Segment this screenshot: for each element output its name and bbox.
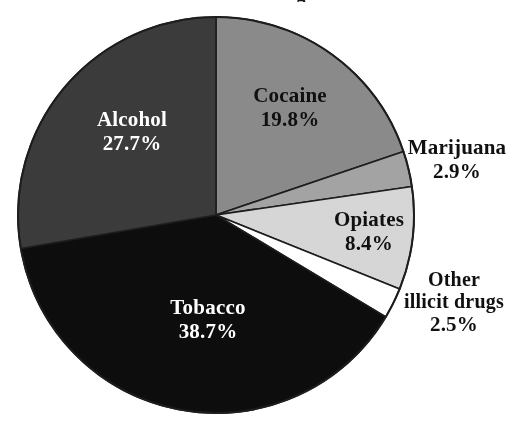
- slice-label-alcohol-name: Alcohol: [62, 108, 202, 132]
- slice-label-cocaine-value: 19.8%: [222, 108, 358, 132]
- pie-chart-figure: g Alcohol 27.7% Cocaine 19.8% Marijuana …: [0, 0, 516, 429]
- pie-chart-svg: [0, 0, 516, 429]
- slice-label-other-value: 2.5%: [392, 313, 516, 337]
- slice-label-cocaine: Cocaine 19.8%: [222, 84, 358, 131]
- slice-label-tobacco: Tobacco 38.7%: [142, 296, 274, 343]
- slice-label-other-illicit-drugs: Other illicit drugs 2.5%: [392, 268, 516, 336]
- slice-label-opiates-value: 8.4%: [314, 232, 424, 256]
- slice-label-other-name-line1: Other: [392, 268, 516, 290]
- slice-label-other-name-line2: illicit drugs: [392, 290, 516, 312]
- slice-label-cocaine-name: Cocaine: [222, 84, 358, 108]
- slice-label-marijuana-value: 2.9%: [396, 160, 516, 184]
- slice-label-marijuana: Marijuana 2.9%: [396, 136, 516, 183]
- slice-label-alcohol-value: 27.7%: [62, 132, 202, 156]
- slice-label-opiates: Opiates 8.4%: [314, 208, 424, 255]
- slice-label-tobacco-name: Tobacco: [142, 296, 274, 320]
- slice-label-opiates-name: Opiates: [314, 208, 424, 232]
- slice-label-alcohol: Alcohol 27.7%: [62, 108, 202, 155]
- slice-label-tobacco-value: 38.7%: [142, 320, 274, 344]
- slice-label-marijuana-name: Marijuana: [396, 136, 516, 160]
